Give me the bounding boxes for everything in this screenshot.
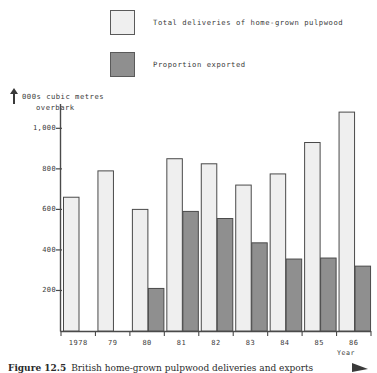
- bar-exported-80: [148, 288, 164, 331]
- y-axis-tick-label: 1,000: [0, 124, 56, 132]
- bar-total-1978: [64, 197, 80, 331]
- bars-layer: [64, 112, 371, 331]
- figure-number: Figure 12.5: [8, 363, 66, 373]
- x-axis-title: Year: [337, 349, 355, 357]
- bar-exported-83: [252, 243, 268, 331]
- y-axis-tick-label: 400: [0, 246, 56, 254]
- bar-exported-84: [286, 259, 302, 331]
- x-axis-tick-label: 86: [349, 339, 358, 347]
- x-axis-tick-label: 79: [108, 339, 117, 347]
- y-axis-tick-label: 200: [0, 286, 56, 294]
- x-axis-tick-label: 84: [280, 339, 289, 347]
- y-axis-tick-label: 800: [0, 165, 56, 173]
- figure-caption: Figure 12.5British home-grown pulpwood d…: [8, 363, 377, 373]
- bar-total-86: [339, 112, 355, 331]
- bar-total-82: [201, 164, 217, 331]
- bar-exported-82: [217, 219, 233, 331]
- x-axis-tick-label: 81: [177, 339, 186, 347]
- x-axis-tick-label: 85: [315, 339, 324, 347]
- bar-exported-81: [183, 211, 199, 331]
- bar-exported-85: [321, 258, 337, 331]
- bar-exported-86: [355, 266, 371, 331]
- bar-total-80: [132, 209, 148, 331]
- x-axis-tick-label: 83: [246, 339, 255, 347]
- x-axis-tick-label: 80: [142, 339, 151, 347]
- x-axis-tick-label: 82: [211, 339, 220, 347]
- bar-total-79: [98, 171, 114, 331]
- figure-caption-text: British home-grown pulpwood deliveries a…: [71, 363, 313, 373]
- bar-total-81: [167, 159, 183, 331]
- y-axis-tick-label: 600: [0, 205, 56, 213]
- bar-total-84: [270, 174, 286, 331]
- bar-total-83: [236, 185, 252, 331]
- bar-total-85: [305, 143, 321, 331]
- x-axis-tick-label: 1978: [69, 339, 88, 347]
